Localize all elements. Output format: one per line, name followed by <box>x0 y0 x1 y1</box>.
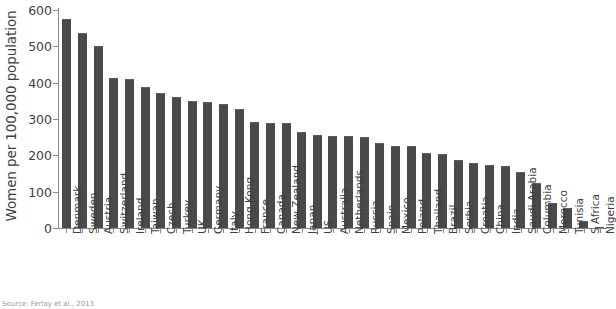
x-label-slot: Australia <box>326 234 342 304</box>
y-tick-label: 100 <box>28 184 52 199</box>
y-tick-mark <box>53 10 58 11</box>
x-tick-label: Netherlands <box>354 170 365 234</box>
x-tick-label: Croatia <box>479 196 490 234</box>
x-label-slot: Italy <box>216 234 232 304</box>
y-axis-title: Women per 100,000 population <box>0 0 20 232</box>
x-label-slot: Switzerland <box>106 234 122 304</box>
x-tick-mark <box>302 229 303 233</box>
x-label-slot: Japan <box>294 234 310 304</box>
y-tick-label: 300 <box>28 112 52 127</box>
x-label-slot: Saudi Arabia <box>514 234 530 304</box>
y-tick-mark <box>53 192 58 193</box>
x-tick-mark <box>506 229 507 233</box>
x-label-slot: New Zealand <box>279 234 295 304</box>
x-label-slot: Morocco <box>545 234 561 304</box>
x-label-slot: US <box>310 234 326 304</box>
x-label-slot: China <box>483 234 499 304</box>
x-label-slot: Czech <box>153 234 169 304</box>
x-tick-label: China <box>495 204 506 234</box>
bar-slot <box>403 10 419 228</box>
x-tick-mark <box>113 229 114 233</box>
x-tick-label: India <box>511 208 522 234</box>
x-label-slot: Taiwan <box>137 234 153 304</box>
x-label-slot: Turkey <box>169 234 185 304</box>
x-label-slot: Sweden <box>75 234 91 304</box>
x-tick-label: Serbia <box>464 201 475 234</box>
x-tick-label: Austria <box>103 197 114 234</box>
bar <box>328 136 337 228</box>
x-label-slot: Denmark <box>59 234 75 304</box>
x-tick-label: Spain <box>385 205 396 234</box>
y-tick-label: 600 <box>28 3 52 18</box>
x-label-slot: Tunisia <box>561 234 577 304</box>
x-tick-mark <box>208 229 209 233</box>
x-label-slot: UK <box>185 234 201 304</box>
bar-slot <box>310 10 326 228</box>
x-tick-mark <box>553 229 554 233</box>
x-tick-label: Columbia <box>542 184 553 234</box>
bar-slot <box>153 10 169 228</box>
x-tick-label: Russia <box>369 200 380 234</box>
x-tick-label: Canada <box>275 194 286 234</box>
x-label-slot: Spain <box>373 234 389 304</box>
x-tick-label: Czech <box>165 202 176 234</box>
y-tick-mark <box>53 83 58 84</box>
y-axis-tick-labels: 0100200300400500600 <box>18 0 56 240</box>
x-label-slot: Mexico <box>388 234 404 304</box>
x-label-slot: Nigeria <box>592 234 608 304</box>
x-tick-label: Hong Kong <box>244 177 255 234</box>
x-label-slot: France <box>247 234 263 304</box>
x-tick-label: Nigeria <box>605 196 616 234</box>
x-tick-mark <box>255 229 256 233</box>
x-tick-mark <box>160 229 161 233</box>
x-tick-label: France <box>260 199 271 234</box>
y-tick-mark <box>53 119 58 120</box>
x-tick-label: Taiwan <box>150 198 161 234</box>
bar-slot <box>497 10 513 228</box>
y-tick-mark <box>53 155 58 156</box>
x-tick-label: Japan <box>307 205 318 234</box>
x-tick-label: Ireland <box>134 198 145 234</box>
y-axis-title-text: Women per 100,000 population <box>2 11 18 222</box>
x-label-slot: Russia <box>357 234 373 304</box>
bar-slot <box>450 10 466 228</box>
x-label-slot: S Africa <box>577 234 593 304</box>
x-tick-mark <box>66 229 67 233</box>
x-label-slot: Germany <box>200 234 216 304</box>
x-axis-tick-labels: DenmarkSwedenAustriaSwitzerlandIrelandTa… <box>59 234 608 304</box>
x-tick-label: Italy <box>228 211 239 234</box>
source-note: Source: Ferlay et al., 2013 <box>2 300 242 309</box>
x-label-slot: Austria <box>90 234 106 304</box>
x-label-slot: Netherlands <box>341 234 357 304</box>
x-tick-label: Turkey <box>181 200 192 234</box>
x-tick-label: Brazil <box>448 205 459 234</box>
x-tick-label: Germany <box>213 186 224 234</box>
x-tick-label: UK <box>197 219 208 234</box>
x-tick-mark <box>459 229 460 233</box>
x-tick-label: Tunisia <box>573 198 584 234</box>
x-tick-label: New Zealand <box>291 165 302 234</box>
bar-slot <box>169 10 185 228</box>
x-tick-label: S Africa <box>589 194 600 234</box>
bar-slot <box>388 10 404 228</box>
x-label-slot: Canada <box>263 234 279 304</box>
x-tick-label: Switzerland <box>118 173 129 234</box>
x-tick-label: Morocco <box>558 190 569 234</box>
x-tick-label: US <box>322 220 333 234</box>
x-tick-label: Saudi Arabia <box>526 167 537 234</box>
x-label-slot: Brazil <box>436 234 452 304</box>
x-tick-label: Poland <box>416 199 427 234</box>
x-tick-label: Thailand <box>432 189 443 234</box>
bar-slot <box>184 10 200 228</box>
x-label-slot: Serbia <box>451 234 467 304</box>
y-tick-label: 0 <box>44 221 52 236</box>
x-label-slot: Columbia <box>530 234 546 304</box>
y-tick-mark <box>53 46 58 47</box>
bar-slot <box>372 10 388 228</box>
y-tick-label: 500 <box>28 39 52 54</box>
x-label-slot: Hong Kong <box>232 234 248 304</box>
x-tick-label: Denmark <box>71 186 82 234</box>
x-tick-mark <box>364 229 365 233</box>
x-tick-mark <box>411 229 412 233</box>
